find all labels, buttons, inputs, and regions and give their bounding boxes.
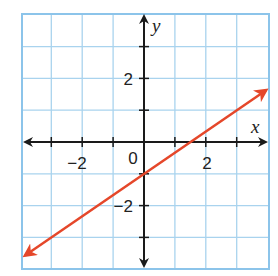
origin-label: 0	[128, 149, 137, 168]
y-tick-label-2: 2	[124, 70, 133, 89]
linear-function-line	[25, 90, 266, 255]
x-axis-label: x	[250, 116, 260, 137]
x-tick-label-2: 2	[202, 154, 211, 173]
x-tick-label-neg2: −2	[67, 154, 86, 173]
y-tick-label-neg2: −2	[114, 197, 133, 216]
y-axis-label: y	[150, 15, 161, 36]
coordinate-plane: y x −2 0 2 2 −2	[0, 0, 278, 276]
axes	[25, 16, 266, 266]
